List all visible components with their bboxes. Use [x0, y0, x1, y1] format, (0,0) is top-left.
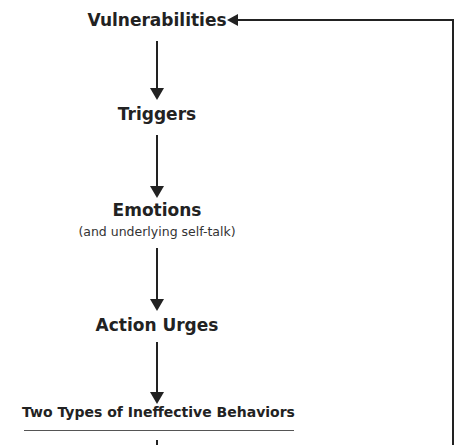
connector-arrows — [0, 0, 460, 445]
